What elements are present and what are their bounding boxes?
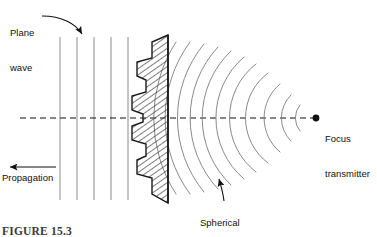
stepped-fresnel-lens (132, 35, 168, 203)
focus-transmitter-label: Focus transmitter (325, 110, 370, 202)
focus-label-line1: Focus (325, 133, 370, 145)
spherical-label-line1: Spherical (200, 217, 241, 229)
focus-label-line2: transmitter (325, 168, 370, 180)
wavefront-arc (216, 57, 244, 179)
lens-body (132, 35, 168, 203)
diagram-canvas (0, 0, 377, 237)
wavefront-arc (202, 51, 231, 185)
figure-container: Plane wave Propagation Focus transmitter… (0, 0, 377, 237)
figure-caption: FIGURE 15.3 (2, 225, 72, 237)
propagation-label: Propagation (2, 172, 53, 184)
focus-point-marker (313, 115, 320, 122)
spherical-wavefront-label: Spherical wavefront (200, 194, 241, 237)
plane-wave-arrow (42, 16, 82, 34)
plane-wave-label-line2: wave (10, 62, 34, 74)
plane-wave-label: Plane wave (10, 4, 34, 96)
plane-wave-label-line1: Plane (10, 27, 34, 39)
